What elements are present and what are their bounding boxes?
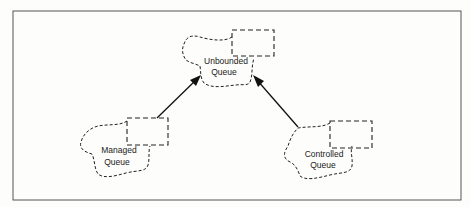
node-managed-queue: Managed Queue: [81, 118, 168, 177]
queue-hierarchy-diagram: Unbounded Queue Managed Queue Controlled…: [0, 0, 471, 207]
node-label-line-1: Managed: [101, 145, 137, 155]
node-label-line-1: Controlled: [305, 149, 344, 159]
queue-box: [330, 121, 372, 148]
node-label-line-2: Queue: [310, 160, 336, 170]
queue-box: [232, 30, 274, 56]
arrow-line: [157, 79, 197, 118]
node-label-line-1: Unbounded: [204, 56, 248, 66]
arrow-line: [257, 80, 298, 127]
queue-box: [127, 118, 168, 145]
node-label-line-2: Queue: [211, 67, 237, 77]
diagram-frame: [13, 11, 461, 200]
edge-controlled-to-unbounded: [253, 75, 298, 127]
node-controlled-queue: Controlled Queue: [285, 121, 373, 179]
edge-managed-to-unbounded: [157, 75, 201, 118]
diagram-canvas: Unbounded Queue Managed Queue Controlled…: [0, 0, 471, 207]
node-label-line-2: Queue: [104, 157, 130, 167]
